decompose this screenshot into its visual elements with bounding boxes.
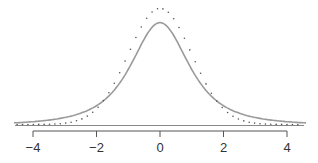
normal-distribution-curve [16,8,298,125]
t-distribution-curve [14,23,306,123]
x-tick-label: 4 [283,140,290,155]
x-tick-label: 2 [220,140,227,155]
x-tick-label: 0 [156,140,163,155]
x-tick-label: −2 [89,140,104,155]
x-axis: −4−2024 [26,131,291,155]
x-tick-label: −4 [26,140,41,155]
chart: −4−2024 [0,0,318,163]
